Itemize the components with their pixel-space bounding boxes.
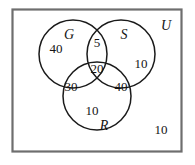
venn-diagram-figure: G S R U 40 10 10 5 30 40 20 10	[0, 0, 195, 165]
region-count-g-only: 40	[50, 41, 63, 56]
region-count-g-and-s: 5	[94, 35, 101, 50]
region-count-s-and-r: 40	[115, 79, 128, 94]
region-count-g-and-r: 30	[65, 79, 78, 94]
region-count-all-three: 20	[91, 61, 104, 76]
region-count-s-only: 10	[135, 56, 148, 71]
venn-diagram-canvas: G S R U 40 10 10 5 30 40 20 10	[0, 0, 195, 165]
region-count-outside: 10	[155, 122, 168, 137]
set-label-r: R	[99, 118, 109, 133]
set-label-s: S	[121, 27, 128, 42]
universal-set-label: U	[161, 18, 172, 33]
set-label-g: G	[64, 27, 74, 42]
region-count-r-only: 10	[86, 103, 99, 118]
